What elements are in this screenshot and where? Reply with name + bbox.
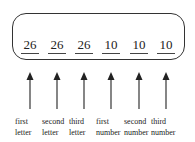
slot-underline xyxy=(130,53,148,54)
slot-underline xyxy=(157,53,175,54)
slot-value: 10 xyxy=(126,38,152,51)
slot-value: 26 xyxy=(44,38,70,51)
up-arrow-icon xyxy=(25,72,35,109)
slot-label-line2: number xyxy=(151,127,185,138)
slot-underline xyxy=(48,53,66,54)
slot-value: 10 xyxy=(153,38,179,51)
slot-value: 26 xyxy=(17,38,43,51)
slot-value: 10 xyxy=(98,38,124,51)
up-arrow-icon xyxy=(106,72,116,109)
up-arrow-icon xyxy=(52,72,62,109)
up-arrow-icon xyxy=(79,72,89,109)
up-arrow-icon xyxy=(134,72,144,109)
slot-underline xyxy=(102,53,120,54)
slot-label-line1: third xyxy=(151,116,185,127)
slot-underline xyxy=(75,53,93,54)
slot-value: 26 xyxy=(71,38,97,51)
slot-underline xyxy=(21,53,39,54)
up-arrow-icon xyxy=(161,72,171,109)
slot-label: third number xyxy=(151,116,185,138)
